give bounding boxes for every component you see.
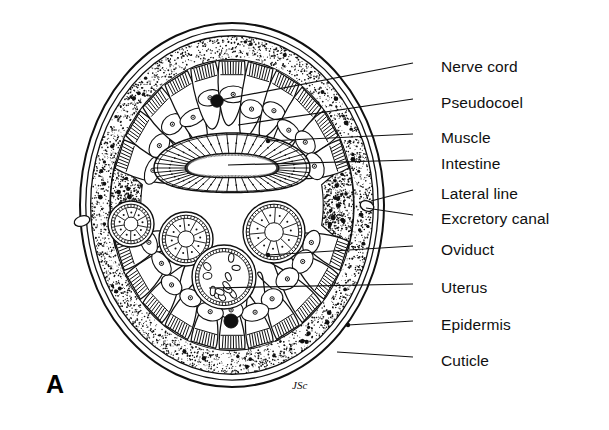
label-lateral-line: Lateral line: [441, 186, 518, 202]
leader-cuticle: [337, 352, 413, 357]
label-epidermis: Epidermis: [441, 317, 511, 333]
label-cuticle: Cuticle: [441, 353, 489, 369]
label-oviduct: Oviduct: [441, 242, 494, 258]
leader-epidermis: [346, 321, 413, 327]
label-uterus: Uterus: [441, 280, 487, 296]
label-intestine: Intestine: [441, 156, 501, 172]
panel-letter: A: [46, 370, 64, 399]
artist-signature: JSc: [292, 379, 307, 391]
label-excretory-canal: Excretory canal: [441, 211, 549, 227]
label-nerve-cord: Nerve cord: [441, 59, 518, 75]
label-pseudocoel: Pseudocoel: [441, 95, 523, 111]
label-muscle: Muscle: [441, 130, 491, 146]
